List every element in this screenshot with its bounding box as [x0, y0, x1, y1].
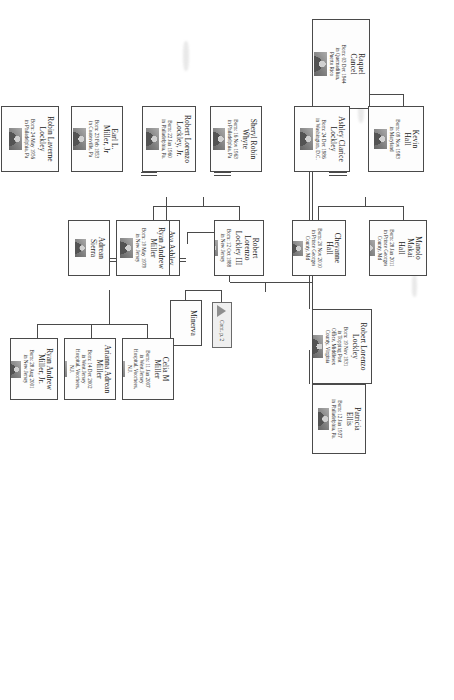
person-details: Born: 20 Nov 2010 in Prince Georges Coun… [305, 226, 323, 270]
person-photo [214, 240, 218, 256]
person-card-ryan-andrew-miller[interactable]: Ryan Andrew Miller Born: 19 May 1979 in … [116, 220, 170, 276]
person-name: Adrean Sierra [88, 226, 105, 270]
connector-horizontal-arianna [91, 324, 92, 338]
connector-horizontal-lockley-spine [203, 197, 204, 207]
person-details: Born: 28 Aug 2001 in New Jersey [23, 344, 35, 394]
scan-artifact [412, 275, 417, 297]
connector-horizontal-kevin [403, 94, 404, 106]
person-details: Born: 22 Jan 1960 in Philadelphia, Pa. [161, 112, 173, 166]
person-card-earl-miller[interactable]: Earl L. Miller, Jr Born: 23 Feb 1953 in … [71, 106, 123, 172]
person-name: Ashley Clarice Lockley [328, 112, 345, 166]
person-name: Earl L. Miller, Jr [101, 112, 118, 166]
person-name: Kevin Hall [402, 112, 419, 166]
person-card-ryan-andrew-miller-jr[interactable]: Ryan Andrew Miller, Jr. Born: 28 Aug 200… [10, 338, 58, 400]
connector-horizontal-cont [221, 290, 222, 302]
scan-artifact [183, 41, 189, 71]
person-photo [146, 128, 159, 150]
person-photo [292, 241, 303, 256]
person-photo [122, 361, 125, 377]
person-photo [9, 128, 22, 150]
person-name: Ryan Andrew Miller [148, 226, 165, 270]
person-name: Raquel Cancel [348, 25, 365, 103]
person-card-arianna-adrean-miller[interactable]: Arianna Adrean Miller Born: 14 Dec 2002 … [64, 338, 116, 400]
person-name: Robin Laverne Lockley [37, 112, 54, 166]
connector-horizontal-to-robin-box [187, 232, 188, 244]
person-details: Born: 03 Dec 1944 in Quemadilian, Puerto… [329, 25, 347, 103]
person-card-celia-m-miller[interactable]: Celia M Miller Born: 11 Jan 2007 in West… [122, 338, 174, 400]
person-name: Cheyanne Hall [324, 226, 341, 270]
connector-horizontal-adrean-to-spine [109, 298, 110, 324]
person-photo [73, 128, 86, 150]
person-details: Born: 24 May 1956 in Philadelphia, Pa [24, 112, 36, 166]
connector-horizontal-ava [153, 206, 154, 220]
person-name: Patricia Ellis [344, 390, 361, 448]
person-name: Sheryl Robin Whyte [240, 112, 257, 166]
person-card-robert-lorenzo-lockley[interactable]: Robert Lorenzo Lockley Born: 19 Nov 1931… [312, 309, 372, 384]
person-name: Robert Lorenzo Lockley, Jr. [174, 112, 191, 166]
connector-horizontal-ryanjr [37, 324, 38, 338]
triangle-up-icon [218, 305, 227, 317]
person-details: Born: 09 Nov 1983 in Maryland [389, 112, 401, 166]
person-card-robin-laverne-lockley[interactable]: Robin Laverne Lockley Born: 24 May 1956 … [1, 106, 59, 172]
person-photo [64, 361, 67, 377]
person-name: Minerva [189, 306, 197, 340]
person-name: Robert Lorenzo Lockley [350, 315, 367, 378]
person-card-robert-lorenzo-lockley-iii[interactable]: Robert Lorenzo Lockley III Born: 12 Oct … [214, 220, 264, 276]
grandkid-spine [38, 324, 148, 325]
connector-horizontal-robertjr [265, 282, 266, 292]
person-card-ashley-clarice-lockley[interactable]: Ashley Clarice Lockley Born: 24 Dec 1986… [294, 106, 350, 172]
connector-horizontal-ryan [166, 197, 167, 220]
person-card-adrean-sierra[interactable]: Adrean Sierra [68, 220, 110, 276]
person-name: Robert Lorenzo Lockley III [234, 226, 259, 270]
person-details: Born: 19 May 1979 in New Jersey [135, 226, 147, 270]
person-details: Born: 12 Jan 1937 in Philadelphia, Pa. [331, 390, 343, 448]
person-card-patricia-ellis[interactable]: Patricia Ellis Born: 12 Jan 1937 in Phil… [312, 384, 366, 454]
connector-horizontal-robertiii [239, 206, 240, 220]
person-card-raquel-cancel[interactable]: Raquel Cancel Born: 03 Dec 1944 in Quema… [312, 19, 370, 109]
person-card-manolo-makai-hall[interactable]: Manolo Makai Hall Born: 28 Jan 2011 in P… [369, 220, 427, 276]
marriage-connector-robertjr-sheryl [214, 172, 231, 176]
person-card-kevin-hall[interactable]: Kevin Hall Born: 09 Nov 1983 in Maryland [368, 106, 424, 172]
person-details: Born: 28 Jan 2011 in Prince Georges Coun… [377, 226, 395, 270]
connector-vertical-hall-children [319, 206, 404, 207]
person-photo [313, 335, 323, 358]
connector-horizontal-hall-spine [365, 197, 366, 207]
person-name: Ryan Andrew Miller, Jr. [36, 344, 53, 394]
person-photo [300, 128, 313, 150]
person-details: Born: 16 Nov 1963 in Philadelphia, Pa [227, 112, 239, 166]
person-photo [120, 238, 133, 258]
person-photo [213, 128, 225, 150]
person-photo [374, 129, 387, 149]
continuation-label: Cont. p. 2 [219, 320, 225, 341]
person-details: Born: 12 Oct 1988 in New Jersey [220, 226, 232, 270]
person-details: Born: 11 Jan 2007 in West Jersey Hospita… [127, 344, 151, 394]
connector-horizontal-minerva-cont [185, 290, 186, 300]
person-card-minerva[interactable]: Minerva [170, 300, 202, 346]
connector-vertical-robertjr-branch [266, 282, 313, 283]
person-photo [75, 239, 86, 257]
marriage-connector-earl-robin [141, 172, 157, 176]
person-details: Born: 14 Dec 2002 in West Jersey Hospita… [69, 344, 93, 394]
person-details: Born: 19 Nov 1931 in Topping Post Office… [325, 315, 349, 378]
connector-vertical-patricia-down [230, 282, 266, 283]
person-details: Born: 24 Dec 1986 in Washington, D.C. [315, 112, 327, 166]
person-photo [314, 52, 327, 76]
person-details: Born: 23 Feb 1953 in Coatesville, Pa [88, 112, 100, 166]
connector-horizontal-cheyanne [318, 206, 319, 220]
person-photo [369, 240, 375, 256]
connector-horizontal-manolo [403, 206, 404, 220]
person-name: Manolo Makai Hall [397, 226, 422, 270]
person-name: Arianna Adrean Miller [94, 344, 111, 394]
person-card-sheryl-robin-whyte[interactable]: Sheryl Robin Whyte Born: 16 Nov 1963 in … [210, 106, 262, 172]
continuation-marker-page-2[interactable]: Cont. p. 2 [212, 302, 232, 348]
person-photo [10, 361, 21, 378]
connector-vertical-minerva-cont [186, 290, 222, 291]
person-name: Celia M Miller [152, 344, 169, 394]
person-card-cheyanne-hall[interactable]: Cheyanne Hall Born: 20 Nov 2010 in Princ… [292, 220, 346, 276]
person-photo [318, 408, 329, 430]
marriage-connector-kevin-ashley [329, 172, 347, 176]
connector-horizontal-celia [147, 324, 148, 338]
person-card-robert-lorenzo-lockley-jr[interactable]: Robert Lorenzo Lockley, Jr. Born: 22 Jan… [142, 106, 196, 172]
family-tree-canvas: Raquel Cancel Born: 03 Dec 1944 in Quema… [0, 0, 454, 700]
